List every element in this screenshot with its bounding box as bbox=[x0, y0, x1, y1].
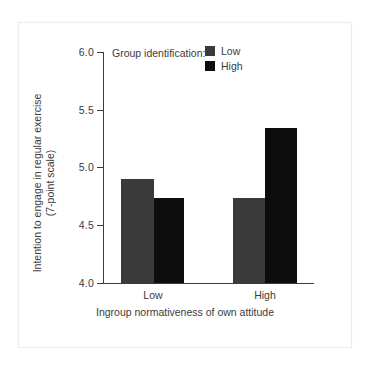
y-tick-5-5 bbox=[97, 110, 103, 111]
y-tick-label-5-0: 5.0 bbox=[79, 161, 94, 173]
y-tick-label-6-0: 6.0 bbox=[79, 46, 94, 58]
legend-swatch-low-icon bbox=[205, 46, 215, 56]
legend-entry-high: High bbox=[205, 60, 243, 72]
y-axis-title-line2: (7-point scale) bbox=[44, 83, 57, 283]
x-axis-title: Ingroup normativeness of own attitude bbox=[0, 306, 370, 318]
y-tick-4-0 bbox=[97, 283, 103, 284]
x-axis-line bbox=[103, 283, 314, 284]
y-tick-5-0 bbox=[97, 167, 103, 168]
y-axis-line bbox=[103, 52, 104, 284]
y-tick-label-5-5: 5.5 bbox=[79, 104, 94, 116]
legend-title: Group identification: bbox=[112, 47, 205, 59]
y-tick-4-5 bbox=[97, 225, 103, 226]
bar-high-normativeness-high-identification bbox=[265, 128, 297, 283]
bar-low-normativeness-high-identification bbox=[154, 198, 184, 283]
y-tick-label-4-0: 4.0 bbox=[79, 277, 94, 289]
legend-swatch-high-icon bbox=[205, 61, 215, 71]
y-axis-title-line1: Intention to engage in regular exercise bbox=[31, 94, 43, 273]
x-tick-label-high: High bbox=[234, 289, 296, 301]
x-tick-label-low: Low bbox=[122, 289, 184, 301]
plot-area: 4.0 4.5 5.0 5.5 6.0 Low High Ingroup nor… bbox=[0, 0, 370, 368]
legend-entry-low: Low bbox=[205, 45, 240, 57]
y-axis-title: Intention to engage in regular exercise … bbox=[31, 83, 57, 283]
y-tick-6-0 bbox=[97, 52, 103, 53]
bar-high-normativeness-low-identification bbox=[233, 198, 265, 283]
figure: 4.0 4.5 5.0 5.5 6.0 Low High Ingroup nor… bbox=[0, 0, 370, 368]
legend-label-high: High bbox=[221, 60, 243, 72]
legend-label-low: Low bbox=[221, 45, 240, 57]
bar-low-normativeness-low-identification bbox=[121, 179, 154, 283]
y-tick-label-4-5: 4.5 bbox=[79, 219, 94, 231]
